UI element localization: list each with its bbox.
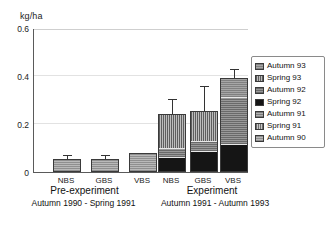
legend-item-a92[interactable]: Autumn 92 <box>255 84 321 96</box>
bar-segment-exp-gbs-s92 <box>191 152 217 171</box>
legend-label-a93: Autumn 93 <box>267 62 306 70</box>
bar-segment-exp-nbs-s93 <box>159 115 185 149</box>
bars-container <box>34 29 248 172</box>
bar-segment-exp-nbs-a92 <box>159 149 185 158</box>
plot-area <box>33 29 248 173</box>
legend-swatch-a92 <box>255 87 264 94</box>
error-cap-exp-vbs <box>230 69 239 70</box>
bar-segment-exp-vbs-a92 <box>221 98 247 145</box>
legend-label-a92: Autumn 92 <box>267 86 306 94</box>
x-tick-vbs-exp: VBS <box>213 176 253 185</box>
bar-pre-gbs[interactable] <box>91 159 119 172</box>
bar-pre-nbs[interactable] <box>53 159 81 172</box>
bar-segment-pre-nbs-a90 <box>54 160 80 171</box>
error-bar-exp-gbs <box>204 87 205 111</box>
legend-item-s91[interactable]: Spring 91 <box>255 120 321 132</box>
bar-segment-exp-nbs-s92 <box>159 158 185 171</box>
legend-swatch-s92 <box>255 99 264 106</box>
legend-item-s93[interactable]: Spring 93 <box>255 72 321 84</box>
bar-segment-exp-gbs-a92 <box>191 142 217 152</box>
group-subtitle-pre-experiment: Autumn 1990 - Spring 1991 <box>6 198 161 208</box>
bar-exp-vbs[interactable] <box>220 78 248 172</box>
y-tick-0.6: 0.6 <box>0 24 29 34</box>
bar-pre-vbs[interactable] <box>129 153 157 172</box>
bar-segment-pre-vbs-a90 <box>130 154 156 171</box>
legend-label-a91: Autumn 91 <box>267 110 306 118</box>
legend-item-s92[interactable]: Spring 92 <box>255 96 321 108</box>
error-bar-exp-nbs <box>172 100 173 114</box>
error-cap-exp-gbs <box>200 86 209 87</box>
y-axis-unit-label: kg/ha <box>20 11 43 21</box>
error-bar-pre-gbs <box>105 156 106 158</box>
legend-swatch-s91 <box>255 123 264 130</box>
legend-label-a90: Autumn 90 <box>267 134 306 142</box>
legend: Autumn 93Spring 93Autumn 92Spring 92Autu… <box>251 56 325 148</box>
legend-label-s93: Spring 93 <box>267 74 301 82</box>
y-tick-0: 0 <box>0 168 29 178</box>
bar-exp-gbs[interactable] <box>190 111 218 172</box>
bar-segment-exp-vbs-s92 <box>221 145 247 171</box>
group-title-pre-experiment: Pre-experiment <box>12 185 157 196</box>
error-cap-pre-nbs <box>63 155 72 156</box>
error-cap-pre-gbs <box>101 155 110 156</box>
bar-segment-exp-vbs-a93 <box>221 79 247 98</box>
y-tick-0.2: 0.2 <box>0 120 29 130</box>
legend-swatch-s93 <box>255 75 264 82</box>
legend-swatch-a91 <box>255 111 264 118</box>
bar-exp-nbs[interactable] <box>158 114 186 172</box>
y-tick-0.4: 0.4 <box>0 72 29 82</box>
legend-item-a91[interactable]: Autumn 91 <box>255 108 321 120</box>
bar-segment-pre-gbs-a90 <box>92 160 118 171</box>
legend-swatch-a93 <box>255 63 264 70</box>
error-cap-exp-nbs <box>168 99 177 100</box>
legend-label-s91: Spring 91 <box>267 122 301 130</box>
x-tick-gbs-pre: GBS <box>84 176 124 185</box>
legend-item-a90[interactable]: Autumn 90 <box>255 132 321 144</box>
group-subtitle-experiment: Autumn 1991 - Autumn 1993 <box>145 198 285 208</box>
x-tick-nbs-pre: NBS <box>46 176 86 185</box>
error-bar-exp-vbs <box>234 70 235 78</box>
legend-label-s92: Spring 92 <box>267 98 301 106</box>
legend-item-a93[interactable]: Autumn 93 <box>255 60 321 72</box>
group-title-experiment: Experiment <box>152 185 272 196</box>
error-bar-pre-nbs <box>67 156 68 158</box>
bar-segment-exp-gbs-s93 <box>191 112 217 142</box>
chart-root: kg/ha 00.20.40.6 NBSGBSVBSNBSGBSVBS Pre-… <box>0 0 329 228</box>
legend-swatch-a90 <box>255 135 264 142</box>
